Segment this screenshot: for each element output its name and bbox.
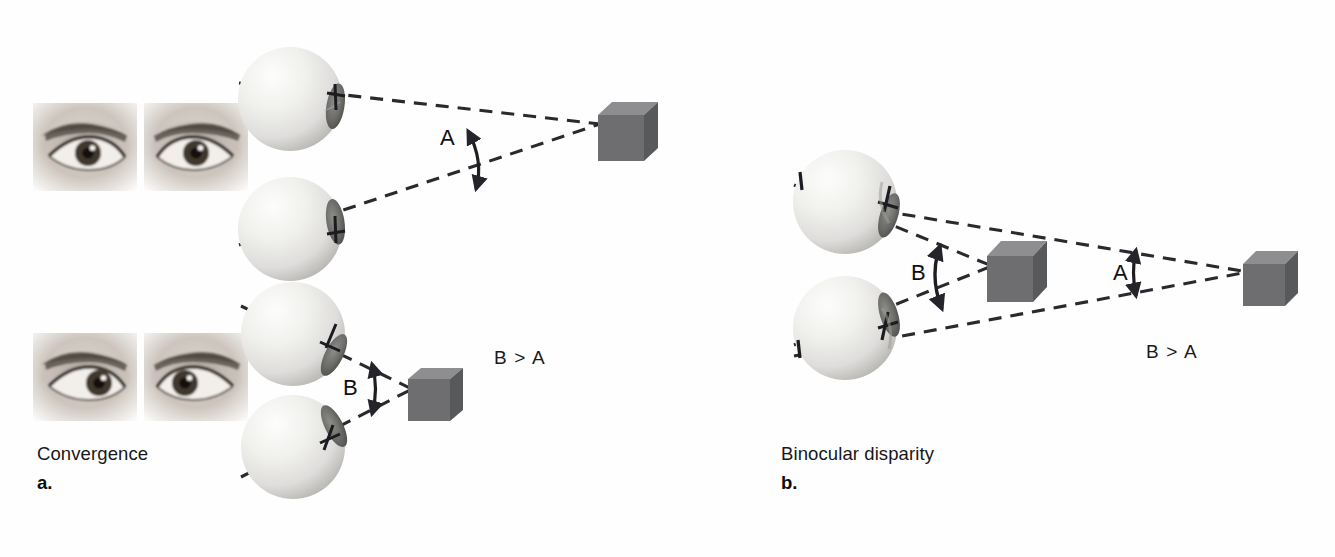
- eyeball-panel-a-lower-near: [241, 395, 352, 499]
- angle-label-a-panel-a: A: [440, 125, 455, 151]
- eyeball-panel-a-upper-far: [238, 47, 348, 151]
- panel-b-title: Binocular disparity: [781, 443, 934, 465]
- angle-label-b-panel-a: B: [343, 375, 358, 401]
- angle-arc-a-panel-b: [1134, 250, 1137, 296]
- eyeball-panel-b-lower: [793, 276, 904, 380]
- cube-panel-b-near-target: [987, 241, 1047, 302]
- panel-b-letter: b.: [781, 472, 797, 494]
- relation-label-panel-b: B > A: [1146, 341, 1198, 363]
- panel-a-title: Convergence: [37, 443, 148, 465]
- eyeball-panel-b-upper: [793, 150, 904, 254]
- angle-arc-a-panel-a: [468, 131, 479, 189]
- cube-panel-b-far-target: [1243, 251, 1298, 306]
- eyeball-panel-a-upper-near: [241, 282, 352, 386]
- relation-label-panel-a: B > A: [494, 347, 546, 369]
- diagram-vector-layer: [0, 0, 1335, 557]
- cube-panel-a-far-target: [598, 102, 658, 161]
- angle-arc-b-panel-b: [935, 246, 942, 309]
- panel-a-letter: a.: [37, 472, 52, 494]
- eyeball-panel-a-lower-far: [238, 177, 348, 281]
- angle-label-a-panel-b: A: [1113, 260, 1128, 286]
- cube-panel-a-near-target: [408, 368, 463, 421]
- angle-arc-b-panel-a: [372, 364, 376, 414]
- binocular-depth-cue-figure: A B B > A Convergence a. B A B > A Binoc…: [0, 0, 1335, 557]
- angle-label-b-panel-b: B: [911, 260, 926, 286]
